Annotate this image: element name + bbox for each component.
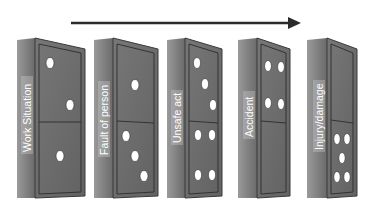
domino-face bbox=[185, 38, 222, 198]
domino-face bbox=[35, 38, 85, 198]
domino-work-situation: Work Situation bbox=[17, 38, 85, 198]
domino-label: Unsafe act bbox=[171, 90, 183, 145]
domino-label-text: Accident bbox=[243, 97, 255, 137]
domino-unsafe-act: Unsafe act bbox=[167, 38, 222, 198]
top-pips bbox=[131, 80, 139, 91]
domino-label-text: Unsafe act bbox=[171, 93, 183, 143]
domino-label: Fault of person bbox=[98, 81, 110, 157]
domino-injury-damage: Injury/damage bbox=[307, 38, 357, 198]
diagram-canvas: Work Situation Fault of person bbox=[0, 0, 372, 211]
domino-diagram: Work Situation Fault of person bbox=[0, 0, 372, 211]
domino-face bbox=[257, 38, 290, 198]
domino-label-text: Work Situation bbox=[21, 84, 33, 152]
domino-label: Work Situation bbox=[21, 76, 33, 154]
progression-arrow bbox=[71, 17, 301, 29]
domino-label-text: Injury/damage bbox=[313, 83, 325, 150]
arrow-head-icon bbox=[288, 17, 301, 29]
domino-fault-of-person: Fault of person bbox=[94, 38, 158, 198]
domino-face bbox=[113, 38, 158, 198]
domino-accident: Accident bbox=[238, 38, 290, 198]
bottom-pips bbox=[56, 151, 64, 162]
domino-label-text: Fault of person bbox=[98, 85, 110, 155]
domino-label: Injury/damage bbox=[313, 80, 325, 152]
domino-label: Accident bbox=[243, 91, 255, 139]
